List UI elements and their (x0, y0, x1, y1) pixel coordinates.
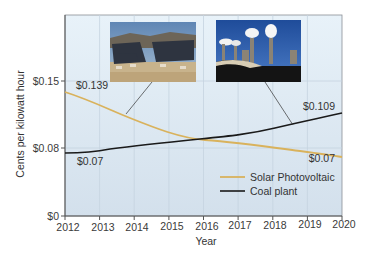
x-tick-label: 2014 (125, 221, 149, 233)
coal-start-label: $0.07 (77, 155, 103, 167)
y-axis-title: Cents per kilowatt hour (14, 70, 26, 178)
legend-coal-label: Coal plant (250, 185, 297, 197)
x-tick-label: 2012 (56, 221, 80, 233)
coal-plant-photo (216, 20, 301, 82)
solar-panel-photo (110, 22, 196, 82)
x-tick-label: 2020 (332, 218, 356, 230)
x-tick-label: 2015 (160, 220, 184, 232)
x-tick-label: 2017 (228, 219, 252, 231)
solar-start-label: $0.139 (76, 79, 108, 91)
chart: $0.15 $0.08 $0 2012 2013 2014 2015 2016 … (0, 0, 367, 260)
x-axis-title: Year (195, 235, 217, 247)
y-tick-label: $0.15 (33, 75, 59, 87)
x-tick-labels: 2012 2013 2014 2015 2016 2017 2018 2019 … (56, 218, 356, 233)
x-tick-label: 2019 (298, 218, 322, 230)
legend-solar-label: Solar Photovoltaic (250, 171, 335, 183)
solar-end-label: $0.07 (309, 152, 335, 164)
y-tick-label: $0.08 (33, 142, 59, 154)
x-tick-label: 2016 (195, 220, 219, 232)
x-tick-label: 2018 (263, 219, 287, 231)
coal-end-label: $0.109 (303, 100, 335, 112)
x-tick-label: 2013 (91, 221, 115, 233)
